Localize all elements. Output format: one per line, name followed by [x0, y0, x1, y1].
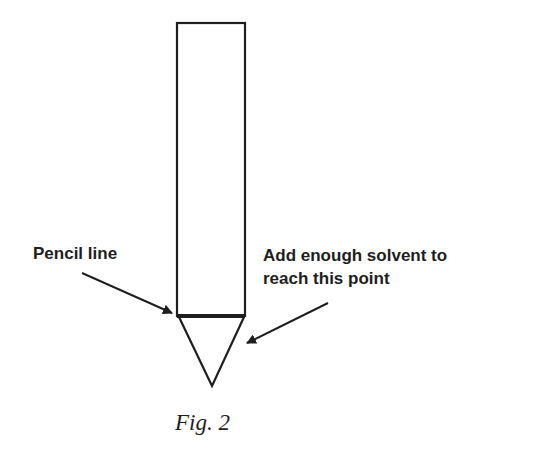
figure-caption: Fig. 2 [175, 410, 230, 436]
tlc-tube-diagram [0, 0, 540, 467]
solvent-arrow-icon [247, 303, 328, 343]
tube-body [177, 23, 245, 316]
tube-tip [179, 317, 244, 386]
pencil-line-arrow-icon [82, 273, 172, 313]
pencil-line-label: Pencil line [33, 243, 117, 265]
solvent-label-line-1: Add enough solvent to [263, 245, 447, 267]
solvent-label-line-2: reach this point [263, 268, 390, 290]
